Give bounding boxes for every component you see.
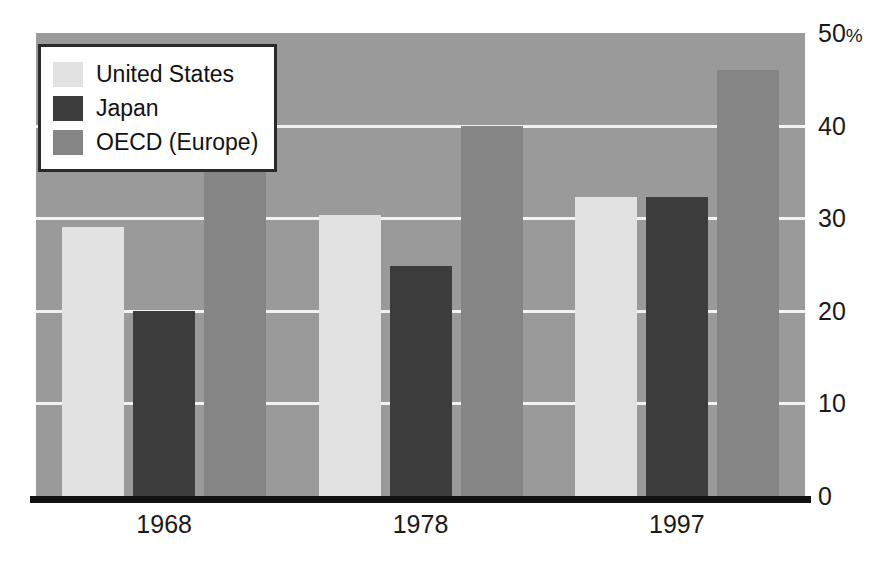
legend: United StatesJapanOECD (Europe) [38,44,277,172]
legend-item-label: OECD (Europe) [96,131,258,154]
y-axis-tick-40: 40 [818,113,846,138]
y-axis-percent-symbol: % [846,25,863,46]
legend-item-oecd-europe: OECD (Europe) [53,125,258,159]
y-axis-tick-10: 10 [818,391,846,416]
legend-swatch-icon [53,62,83,87]
bar-chart: 50%403020100 196819781997 United StatesJ… [0,0,892,566]
legend-item-label: Japan [96,97,159,120]
bar-united-states-1997 [575,197,637,496]
bar-japan-1968 [133,311,195,496]
bar-united-states-1978 [319,215,381,496]
legend-swatch-icon [53,130,83,155]
legend-swatch-icon [53,96,83,121]
y-axis-tick-30: 30 [818,206,846,231]
bar-oecd-europe-1968 [204,163,266,496]
legend-item-united-states: United States [53,57,258,91]
legend-item-label: United States [96,63,234,86]
y-axis-tick-0: 0 [818,484,832,509]
x-axis-baseline [30,496,811,503]
bar-oecd-europe-1978 [461,126,523,496]
x-axis-tick-1997: 1997 [649,512,705,537]
bar-japan-1997 [646,197,708,496]
x-axis-tick-1968: 1968 [136,512,192,537]
bar-oecd-europe-1997 [717,70,779,496]
legend-item-japan: Japan [53,91,258,125]
y-axis-tick-50: 50% [818,21,863,46]
bar-japan-1978 [390,266,452,496]
x-axis-tick-1978: 1978 [393,512,449,537]
bar-united-states-1968 [62,227,124,496]
y-axis-tick-20: 20 [818,298,846,323]
